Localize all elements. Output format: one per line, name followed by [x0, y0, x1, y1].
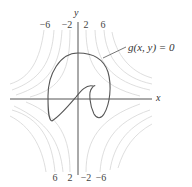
- top-contour-label: −6: [40, 20, 51, 30]
- bottom-contour-label: 6: [53, 173, 58, 183]
- constraint-curve: [48, 53, 110, 121]
- bottom-contour-label: −6: [96, 173, 107, 183]
- top-contour-label: 6: [101, 20, 106, 30]
- x-axis-label: x: [156, 93, 160, 103]
- bottom-contour-label: −2: [81, 173, 92, 183]
- top-contour-label: 2: [84, 20, 89, 30]
- contour-diagram: [0, 0, 192, 187]
- bottom-contour-label: 2: [68, 173, 73, 183]
- label-leader-line: [103, 47, 126, 58]
- y-axis-label: y: [74, 8, 78, 18]
- top-contour-label: −2: [62, 20, 73, 30]
- curve-label: g(x, y) = 0: [128, 42, 175, 52]
